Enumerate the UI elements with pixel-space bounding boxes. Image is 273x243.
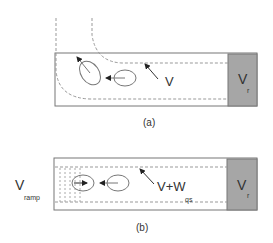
flow-subscript-b: qs: [185, 196, 193, 204]
caption-a: (a): [143, 117, 155, 128]
panel-b: V+W qs V ramp V r (b): [15, 158, 257, 233]
panel-a: V V r (a): [55, 18, 257, 128]
flow-label-b: V+W: [157, 179, 186, 194]
diagram-canvas: V V r (a) V+W qs V ramp V r (b): [0, 0, 273, 243]
wall-label-b: V: [237, 177, 247, 193]
caption-b: (b): [136, 222, 148, 233]
wall-label-a: V: [238, 71, 248, 87]
ramp-label-b: V: [15, 177, 25, 193]
flow-label-a: V: [165, 74, 174, 89]
ramp-subscript-b: ramp: [24, 194, 40, 202]
